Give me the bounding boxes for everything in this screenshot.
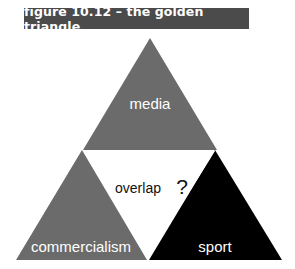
overlap-question-mark: ? xyxy=(176,175,188,198)
sport-label: sport xyxy=(198,238,232,255)
commercialism-label: commercialism xyxy=(31,238,131,255)
media-label: media xyxy=(130,95,172,112)
overlap-label: overlap xyxy=(115,180,161,196)
golden-triangle-diagram: media commercialism sport overlap ? xyxy=(0,0,295,269)
media-triangle xyxy=(83,38,217,150)
